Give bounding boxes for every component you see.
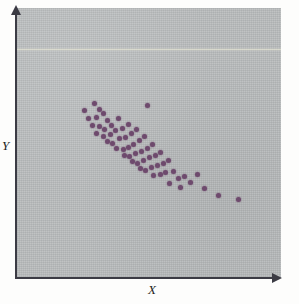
y-axis-line [15, 14, 17, 279]
x-axis-label: X [148, 283, 156, 296]
data-point [94, 115, 99, 120]
data-point [97, 124, 102, 129]
data-point [130, 159, 135, 164]
data-point [135, 161, 140, 166]
data-point [113, 128, 118, 133]
data-point [114, 146, 119, 151]
data-point [137, 138, 142, 143]
data-point [141, 158, 146, 163]
data-point [202, 186, 207, 191]
x-axis-line [15, 277, 275, 279]
data-point [167, 181, 172, 186]
data-point [178, 185, 183, 190]
data-point [126, 122, 131, 127]
arrow-right-icon [272, 273, 282, 283]
data-point [86, 116, 91, 121]
data-point [150, 142, 155, 147]
data-point [145, 103, 150, 108]
plot-panel [16, 8, 281, 278]
data-point [158, 172, 163, 177]
data-point [127, 154, 132, 159]
data-point [163, 170, 168, 175]
data-point [138, 166, 143, 171]
data-point [90, 123, 95, 128]
data-point [116, 116, 121, 121]
data-point [126, 145, 131, 150]
data-point [158, 150, 163, 155]
data-point [122, 153, 127, 158]
y-axis-label: Y [2, 139, 9, 152]
data-point [101, 134, 106, 139]
data-point [109, 123, 114, 128]
data-point [195, 172, 200, 177]
data-point [171, 169, 176, 174]
data-point [153, 153, 158, 158]
data-point [182, 174, 187, 179]
data-point [82, 108, 87, 113]
data-point [110, 141, 115, 146]
data-point [176, 176, 181, 181]
data-point [155, 163, 160, 168]
data-point [236, 197, 241, 202]
data-point [161, 161, 166, 166]
data-point [121, 147, 126, 152]
data-point [131, 142, 136, 147]
data-point [117, 136, 122, 141]
scatter-plot-figure: Y X [0, 0, 299, 304]
data-point [151, 173, 156, 178]
data-point [188, 180, 193, 185]
data-point [149, 165, 154, 170]
data-point [105, 118, 110, 123]
data-point [129, 131, 134, 136]
data-point [143, 168, 148, 173]
data-point [94, 131, 99, 136]
data-point [105, 139, 110, 144]
data-point [120, 126, 125, 131]
data-point [139, 149, 144, 154]
data-point [133, 151, 138, 156]
data-point [101, 111, 106, 116]
data-point [123, 135, 128, 140]
data-point [108, 132, 113, 137]
data-point [142, 134, 147, 139]
data-point [102, 127, 107, 132]
data-point [92, 101, 97, 106]
arrow-up-icon [11, 5, 21, 15]
scan-artifact-band [16, 48, 281, 51]
data-point [166, 158, 171, 163]
data-point [147, 155, 152, 160]
data-point [134, 127, 139, 132]
data-point [145, 146, 150, 151]
data-point [216, 193, 221, 198]
